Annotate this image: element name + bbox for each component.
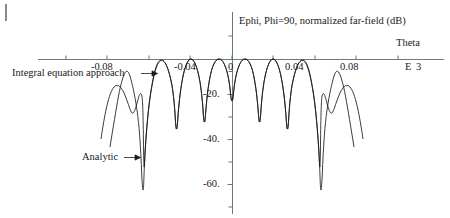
x-axis-title: Theta bbox=[396, 38, 420, 49]
x-tick-label-0.08: 0.08 bbox=[340, 62, 358, 73]
y-tick-label-minus-60: -60. bbox=[203, 179, 220, 190]
x-tick-label-minus-0.04: -0.04 bbox=[174, 62, 196, 73]
annotation-arrow-analytic bbox=[124, 155, 141, 160]
chart-canvas bbox=[0, 0, 450, 218]
x-axis-exponent-label: E 3 bbox=[405, 62, 422, 73]
far-field-pattern-figure: Ephi, Phi=90, normalized far-field (dB) … bbox=[0, 0, 450, 218]
y-tick-label-minus-20: -20. bbox=[203, 89, 220, 100]
x-axis bbox=[38, 56, 444, 60]
plot-title: Ephi, Phi=90, normalized far-field (dB) bbox=[239, 16, 406, 27]
y-axis bbox=[228, 12, 233, 214]
annotation-analytic: Analytic bbox=[82, 152, 118, 163]
x-tick-label-0.04: 0.04 bbox=[285, 62, 303, 73]
curve-analytic bbox=[110, 59, 354, 190]
annotation-integral-equation-approach: Integral equation approach bbox=[12, 68, 125, 79]
y-tick-label-minus-40: -40. bbox=[203, 134, 220, 145]
x-tick-label-0: 0 bbox=[228, 62, 233, 73]
